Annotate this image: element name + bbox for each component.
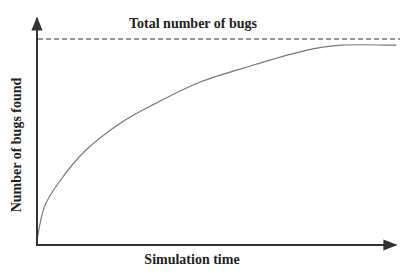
bug-discovery-chart: Total number of bugs Simulation time Num… xyxy=(0,0,416,278)
y-axis-label: Number of bugs found xyxy=(9,77,24,212)
asymptote-label: Total number of bugs xyxy=(129,16,258,31)
bugs-found-curve xyxy=(37,45,396,240)
x-axis-label: Simulation time xyxy=(144,252,239,267)
